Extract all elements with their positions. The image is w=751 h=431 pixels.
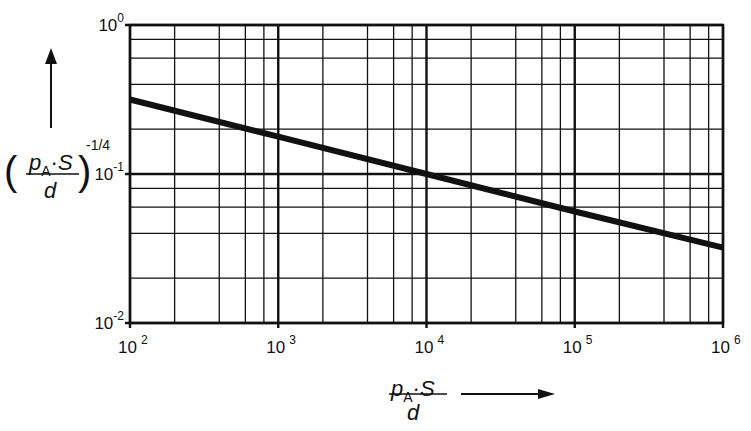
y-tick-label: 100 <box>98 11 124 35</box>
x-axis-arrowhead-icon <box>538 389 555 399</box>
y-tick-labels: 10010-110-2 <box>94 11 124 333</box>
y-label-p: p <box>28 150 41 175</box>
x-tick-label: 104 <box>415 333 445 357</box>
x-tick-label: 103 <box>266 333 296 357</box>
y-label-denominator: d <box>44 178 57 203</box>
y-tick-label: 10-2 <box>94 309 124 333</box>
x-label-denominator: d <box>407 400 420 425</box>
major-grid <box>125 25 723 328</box>
x-tick-label: 106 <box>711 333 741 357</box>
y-label-exponent: -1/4 <box>86 137 110 153</box>
y-label-close-paren: ) <box>78 149 91 193</box>
y-label-open-paren: ( <box>4 149 18 193</box>
x-axis-label: pA·S d <box>389 376 555 425</box>
x-label-p: p <box>390 376 403 401</box>
x-tick-label: 102 <box>118 333 148 357</box>
y-axis-arrowhead-icon <box>45 48 57 64</box>
y-label-s: ·S <box>51 150 73 175</box>
x-label-s: ·S <box>413 376 435 401</box>
x-tick-label: 105 <box>563 333 593 357</box>
log-log-chart: 102103104105106 10010-110-2 ( pA·S d ) -… <box>0 0 751 431</box>
x-tick-labels: 102103104105106 <box>118 333 741 357</box>
y-tick-label: 10-1 <box>94 160 124 184</box>
